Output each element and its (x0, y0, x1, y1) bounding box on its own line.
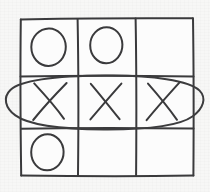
tic-tac-toe-drawing (0, 0, 210, 192)
grid-line-vertical-1 (78, 19, 79, 175)
grid-line-vertical-2 (136, 19, 137, 176)
board-edge-left (20, 20, 21, 176)
board-edge-right (193, 18, 194, 175)
board-edge-bottom (21, 175, 193, 176)
tic-tac-toe-scene (0, 0, 210, 192)
